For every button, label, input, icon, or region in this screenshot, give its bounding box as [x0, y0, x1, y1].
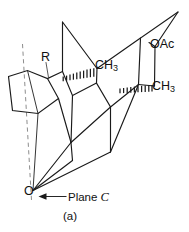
center-ring-lower-left-bond — [59, 99, 72, 143]
label-substituent-r: R — [41, 51, 50, 64]
center-ring-top-bond — [73, 83, 97, 96]
chemical-structure-figure: OAc CH3 CH3 R O Plane C (a) — [0, 0, 189, 232]
upper-left-ring-diagonal — [63, 22, 98, 69]
label-methyl-upper: CH3 — [95, 59, 118, 73]
plane-c-dashed-line — [23, 44, 32, 200]
r-leader-line — [46, 63, 49, 78]
o-vertex-to-left-ring-bond — [33, 114, 38, 191]
label-methyl-lower-subscript: 3 — [170, 84, 175, 94]
center-ring-right-chain — [97, 69, 111, 153]
label-methyl-lower-text: CH — [152, 79, 170, 93]
mid-lower-short-bond — [71, 143, 73, 161]
plane-c-arrow — [39, 193, 67, 199]
label-oac: OAc — [150, 38, 174, 51]
label-plane-c-letter: C — [101, 190, 109, 204]
label-substituent-r-text: R — [41, 50, 50, 64]
label-methyl-lower: CH3 — [152, 80, 175, 94]
figure-caption-text: (a) — [63, 210, 77, 222]
left-ring-cross-bond — [28, 71, 39, 114]
label-methyl-upper-text: CH — [95, 58, 113, 72]
label-oxygen: O — [24, 185, 34, 198]
right-ring-long-bond — [111, 85, 139, 153]
figure-caption: (a) — [63, 211, 77, 223]
label-oac-text: OAc — [150, 37, 174, 51]
label-methyl-upper-subscript: 3 — [113, 63, 118, 73]
left-ring-right-vertical — [48, 79, 59, 99]
left-ring-upper-edge — [9, 71, 63, 79]
label-oxygen-text: O — [24, 184, 34, 198]
center-ring-inner-diagonal — [71, 107, 111, 143]
label-plane-c: Plane C — [68, 191, 109, 204]
label-plane-c-text: Plane — [68, 191, 101, 203]
hashed-wedge-upper-methyl — [63, 68, 94, 81]
